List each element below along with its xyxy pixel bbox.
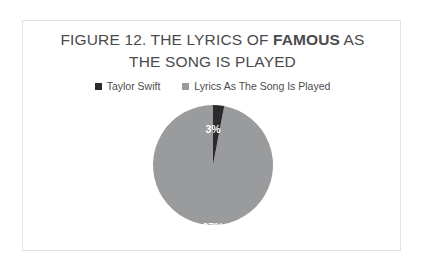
pie-chart-area: 3% 97% — [23, 103, 402, 243]
figure-container: FIGURE 12. THE LYRICS OF FAMOUS AS THE S… — [22, 20, 401, 251]
legend-item-taylor-swift[interactable]: Taylor Swift — [95, 80, 161, 92]
pie-chart: 3% 97% — [148, 103, 278, 237]
chart-title-line-2: THE SONG IS PLAYED — [23, 51, 402, 73]
chart-title-emphasis: FAMOUS — [273, 31, 340, 48]
legend-swatch-icon — [95, 83, 102, 90]
chart-title: FIGURE 12. THE LYRICS OF FAMOUS AS THE S… — [23, 29, 402, 73]
legend-item-label: Taylor Swift — [107, 80, 161, 92]
pie-slice-label-taylor-swift: 3% — [205, 123, 221, 135]
chart-title-suffix: AS — [340, 31, 365, 48]
legend-item-label: Lyrics As The Song Is Played — [194, 80, 330, 92]
chart-legend: Taylor Swift Lyrics As The Song Is Playe… — [23, 80, 402, 92]
legend-swatch-icon — [182, 83, 189, 90]
chart-title-prefix: FIGURE 12. THE LYRICS OF — [61, 31, 273, 48]
pie-slice-label-lyrics-as-the-song-is-played: 97% — [202, 221, 224, 233]
chart-title-line-1: FIGURE 12. THE LYRICS OF FAMOUS AS — [23, 29, 402, 51]
legend-item-lyrics-as-the-song-is-played[interactable]: Lyrics As The Song Is Played — [182, 80, 330, 92]
